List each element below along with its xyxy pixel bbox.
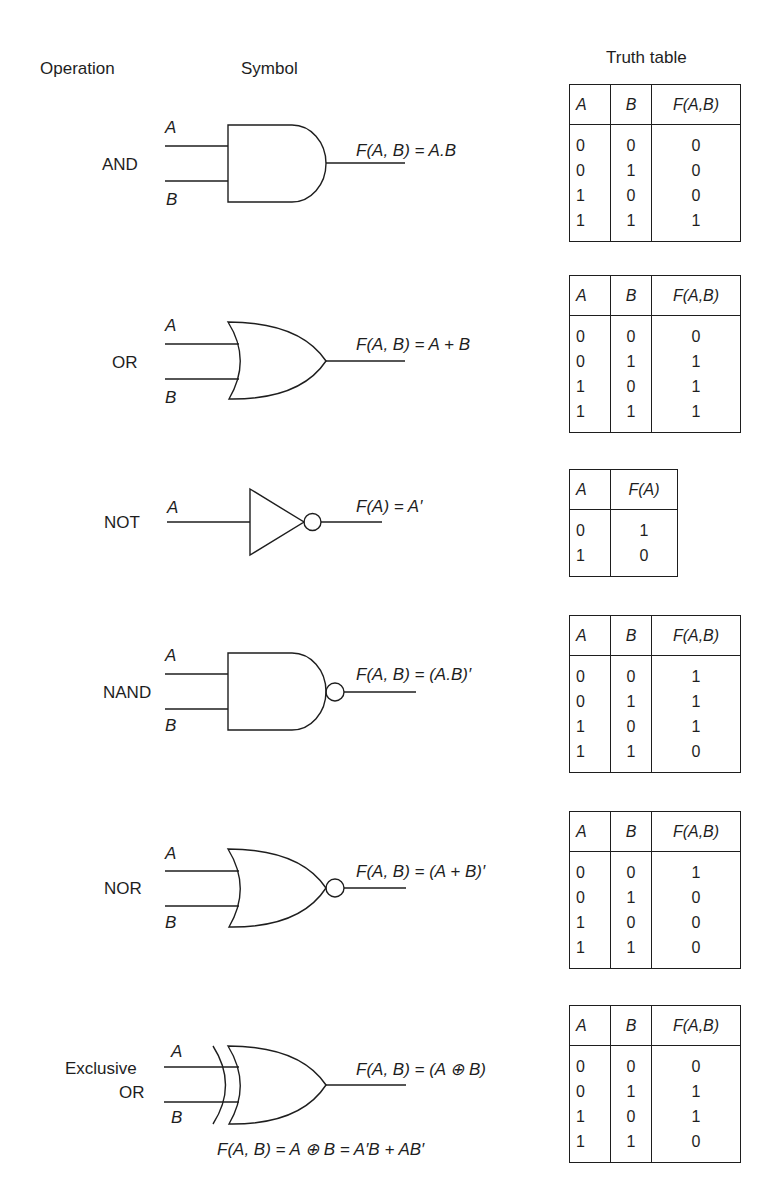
equation-nor: F(A, B) = (A + B)′ <box>356 862 485 882</box>
column-header: A <box>570 85 611 125</box>
xor-gate-icon <box>164 1046 406 1124</box>
cell: 0 <box>570 852 611 886</box>
table-row: 101 <box>570 374 741 399</box>
cell: 0 <box>611 125 652 159</box>
cell: 0 <box>570 656 611 690</box>
truth-table-and: A B F(A,B) 000 010 100 111 <box>569 84 741 242</box>
table-row: 000 <box>570 1046 741 1080</box>
truth-table-nor: A B F(A,B) 001 010 100 110 <box>569 811 741 969</box>
equation-xor: F(A, B) = (A ⊕ B) <box>356 1059 486 1080</box>
cell: 0 <box>570 689 611 714</box>
cell: 1 <box>570 935 611 969</box>
column-header: B <box>611 276 652 316</box>
cell: 1 <box>652 714 741 739</box>
cell: 1 <box>652 399 741 433</box>
cell: 1 <box>611 1129 652 1163</box>
cell: 1 <box>652 1104 741 1129</box>
table-row: 101 <box>570 714 741 739</box>
cell: 0 <box>570 510 611 544</box>
table-row: 001 <box>570 852 741 886</box>
cell: 0 <box>570 885 611 910</box>
cell: 0 <box>570 158 611 183</box>
cell: 0 <box>611 910 652 935</box>
cell: 1 <box>652 208 741 242</box>
column-header: B <box>611 616 652 656</box>
input-label-b: B <box>165 913 176 933</box>
table-row: 111 <box>570 208 741 242</box>
cell: 1 <box>652 852 741 886</box>
cell: 1 <box>652 656 741 690</box>
cell: 1 <box>570 208 611 242</box>
input-label-a: A <box>165 118 176 138</box>
table-row: 000 <box>570 316 741 350</box>
cell: 0 <box>611 374 652 399</box>
table-row: 010 <box>570 158 741 183</box>
input-label-a: A <box>165 316 176 336</box>
table-row: 100 <box>570 910 741 935</box>
cell: 0 <box>652 935 741 969</box>
table-row: 111 <box>570 399 741 433</box>
input-label-b: B <box>171 1108 182 1128</box>
operation-label-nand: NAND <box>103 683 151 703</box>
cell: 1 <box>611 158 652 183</box>
input-label-b: B <box>165 388 176 408</box>
cell: 1 <box>611 689 652 714</box>
table-row: 110 <box>570 1129 741 1163</box>
cell: 1 <box>611 349 652 374</box>
or-gate-icon <box>165 322 405 399</box>
table-row: 011 <box>570 1079 741 1104</box>
cell: 1 <box>611 510 678 544</box>
cell: 0 <box>652 125 741 159</box>
column-header: F(A,B) <box>652 276 741 316</box>
input-label-b: B <box>165 716 176 736</box>
truth-table-not: A F(A) 01 10 <box>569 469 678 577</box>
column-header: B <box>611 812 652 852</box>
cell: 0 <box>611 1104 652 1129</box>
column-header: B <box>611 85 652 125</box>
cell: 0 <box>570 1046 611 1080</box>
operation-label-or: OR <box>112 353 138 373</box>
input-label-a: A <box>167 498 178 518</box>
cell: 0 <box>652 739 741 773</box>
column-header: A <box>570 616 611 656</box>
table-row: 100 <box>570 183 741 208</box>
column-header: A <box>570 812 611 852</box>
column-header: A <box>570 276 611 316</box>
cell: 0 <box>652 885 741 910</box>
cell: 1 <box>652 374 741 399</box>
cell: 1 <box>611 399 652 433</box>
cell: 1 <box>570 910 611 935</box>
truth-table-xor: A B F(A,B) 000 011 101 110 <box>569 1005 741 1163</box>
table-row: 000 <box>570 125 741 159</box>
operation-label-xor-line1: Exclusive <box>65 1059 137 1079</box>
cell: 1 <box>570 183 611 208</box>
cell: 1 <box>652 1079 741 1104</box>
input-label-a: A <box>171 1042 182 1062</box>
equation-and: F(A, B) = A.B <box>356 141 456 161</box>
input-label-a: A <box>165 844 176 864</box>
table-row: 110 <box>570 739 741 773</box>
cell: 1 <box>652 689 741 714</box>
cell: 1 <box>570 543 611 577</box>
table-row: 001 <box>570 656 741 690</box>
operation-label-xor-line2: OR <box>119 1083 145 1103</box>
column-header: F(A,B) <box>652 812 741 852</box>
column-header: A <box>570 470 611 510</box>
cell: 1 <box>570 399 611 433</box>
nor-gate-icon <box>165 849 406 927</box>
cell: 1 <box>652 349 741 374</box>
cell: 1 <box>570 1129 611 1163</box>
not-gate-icon <box>167 489 382 555</box>
cell: 1 <box>611 885 652 910</box>
input-label-a: A <box>165 646 176 666</box>
column-header: B <box>611 1006 652 1046</box>
cell: 0 <box>570 1079 611 1104</box>
cell: 1 <box>611 935 652 969</box>
input-label-b: B <box>166 190 177 210</box>
cell: 1 <box>570 739 611 773</box>
column-header: F(A,B) <box>652 85 741 125</box>
operation-label-not: NOT <box>104 513 140 533</box>
cell: 0 <box>570 349 611 374</box>
cell: 0 <box>611 656 652 690</box>
equation-nand: F(A, B) = (A.B)′ <box>356 665 471 685</box>
